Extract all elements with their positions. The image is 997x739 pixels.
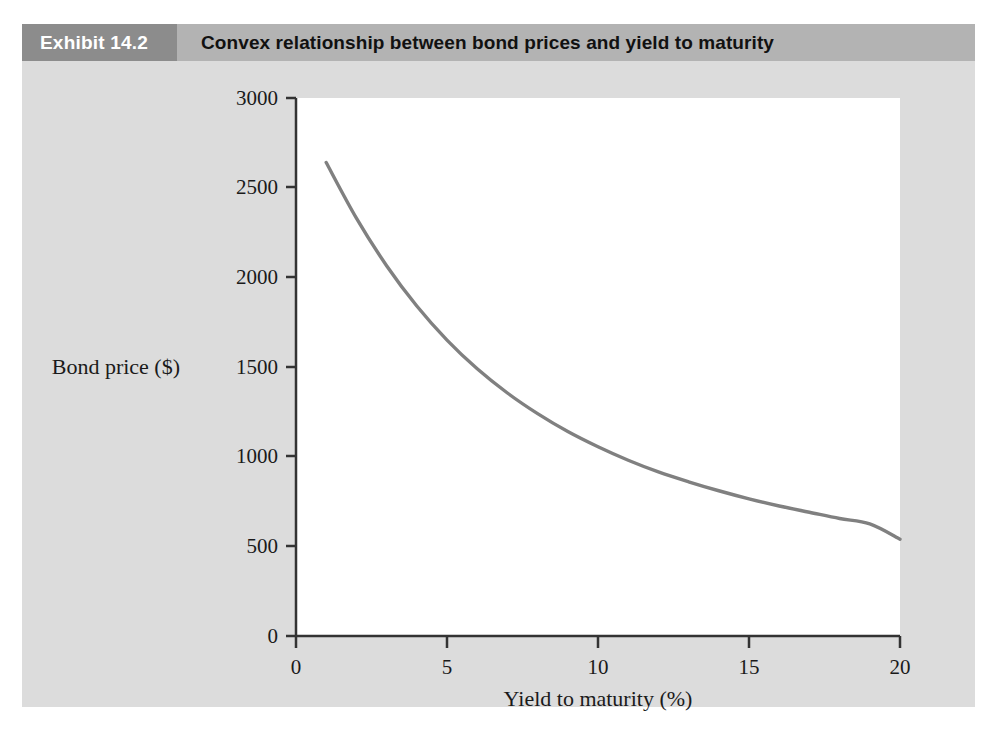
x-tick-label-20: 20 [890,655,911,680]
y-tick-label-1000: 1000 [188,444,278,469]
exhibit-figure: Exhibit 14.2 Convex relationship between… [0,0,997,739]
x-tick-label-15: 15 [739,655,760,680]
y-tick-label-3000: 3000 [188,86,278,111]
exhibit-title: Convex relationship between bond prices … [177,24,975,61]
y-axis-title: Bond price ($) [0,354,180,380]
y-tick-label-2000: 2000 [188,265,278,290]
exhibit-header-bar: Exhibit 14.2 Convex relationship between… [22,24,975,61]
y-tick-label-500: 500 [188,534,278,559]
y-tick-label-0: 0 [188,624,278,649]
plot-area [296,98,900,636]
x-axis-title: Yield to maturity (%) [504,686,693,712]
x-tick-label-10: 10 [588,655,609,680]
exhibit-number-label: Exhibit 14.2 [22,24,177,61]
x-tick-label-0: 0 [291,655,302,680]
y-tick-label-2500: 2500 [188,175,278,200]
y-tick-label-1500: 1500 [188,355,278,380]
x-tick-label-5: 5 [442,655,453,680]
